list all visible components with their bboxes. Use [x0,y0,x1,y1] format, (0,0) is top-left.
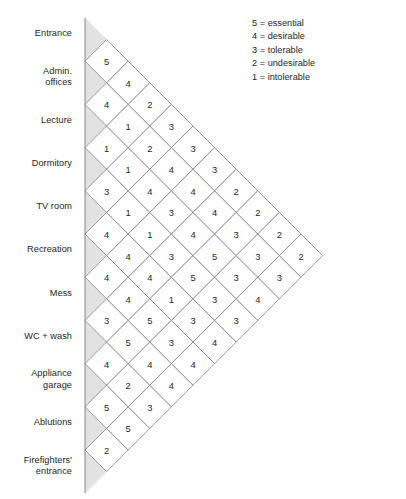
cell-value: 2 [147,99,152,110]
cell-value: 3 [277,272,282,283]
cell-value: 3 [169,207,174,218]
cell-value: 4 [212,207,217,218]
cell-value: 4 [104,359,109,370]
cell-value: 4 [169,164,174,175]
cell-value: 3 [234,315,239,326]
cell-value: 2 [147,143,152,154]
cell-value: 3 [104,315,109,326]
cell-value: 4 [255,294,260,305]
cell-value: 3 [104,186,109,197]
cell-value: 3 [169,121,174,132]
cell-value: 4 [104,99,109,110]
cell-value: 1 [126,121,131,132]
matrix-cells: 5413443452411144525224145433433134344534… [85,40,323,472]
cell-value: 4 [104,229,109,240]
cell-value: 5 [126,423,131,434]
cell-value: 4 [126,78,131,89]
cell-value: 4 [126,251,131,262]
cell-value: 4 [126,294,131,305]
cell-value: 4 [104,272,109,283]
cell-value: 4 [169,380,174,391]
cell-value: 2 [277,229,282,240]
cell-value: 4 [147,272,152,283]
cell-value: 2 [255,207,260,218]
cell-value: 5 [190,272,195,283]
relationship-matrix-diagram: EntranceAdmin.officesLectureDormitoryTV … [0,0,406,499]
cell-value: 3 [147,402,152,413]
cell-value: 2 [298,251,303,262]
cell-value: 1 [126,164,131,175]
cell-value: 2 [126,380,131,391]
cell-value: 3 [212,164,217,175]
cell-value: 5 [104,402,109,413]
cell-value: 1 [147,229,152,240]
matrix-grid: 5413443452411144525224145433433134344534… [0,0,406,499]
cell-value: 4 [190,186,195,197]
cell-value: 4 [190,359,195,370]
cell-value: 4 [212,337,217,348]
cell-value: 5 [147,315,152,326]
cell-value: 1 [104,143,109,154]
cell-value: 1 [126,207,131,218]
cell-value: 5 [104,56,109,67]
cell-value: 3 [169,251,174,262]
cell-value: 4 [147,359,152,370]
cell-value: 4 [147,186,152,197]
cell-value: 3 [169,337,174,348]
cell-value: 3 [190,315,195,326]
cell-value: 2 [104,445,109,456]
cell-value: 5 [126,337,131,348]
cell-value: 3 [212,294,217,305]
cell-value: 3 [255,251,260,262]
cell-value: 4 [190,229,195,240]
cell-value: 3 [234,272,239,283]
cell-value: 3 [234,229,239,240]
cell-value: 5 [212,251,217,262]
cell-value: 3 [190,143,195,154]
cell-value: 2 [234,186,239,197]
cell-value: 1 [169,294,174,305]
